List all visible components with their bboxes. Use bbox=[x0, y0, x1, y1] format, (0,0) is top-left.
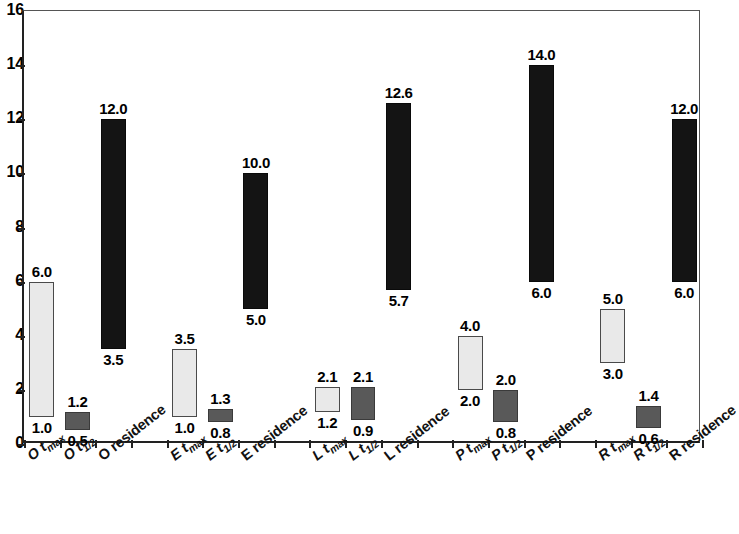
x-axis-tick-mark bbox=[309, 440, 311, 448]
bar-r-thalf bbox=[636, 406, 661, 428]
y-axis-tick-mark bbox=[18, 336, 25, 338]
bar-value-label-high: 2.1 bbox=[333, 368, 393, 385]
bar-r-residence bbox=[672, 119, 697, 281]
y-axis-tick-label: 14 bbox=[0, 55, 24, 73]
bar-value-label-high: 5.0 bbox=[583, 290, 643, 307]
y-axis-tick-mark bbox=[18, 282, 25, 284]
bar-value-label-high: 14.0 bbox=[511, 46, 571, 63]
y-axis-tick-mark bbox=[18, 228, 25, 230]
x-axis-tick-mark bbox=[24, 440, 26, 448]
bar-value-label-high: 6.0 bbox=[12, 263, 72, 280]
bar-p-residence bbox=[529, 65, 554, 282]
bar-value-label-high: 12.0 bbox=[654, 100, 714, 117]
bar-value-label-high: 1.4 bbox=[618, 387, 678, 404]
x-axis-tick-mark bbox=[381, 440, 383, 448]
bar-l-tmax bbox=[315, 387, 340, 411]
bar-value-label-low: 5.7 bbox=[369, 292, 429, 309]
bar-value-label-high: 4.0 bbox=[440, 317, 500, 334]
bar-value-label-low: 2.0 bbox=[440, 392, 500, 409]
bar-o-residence bbox=[101, 119, 126, 349]
bar-value-label-high: 12.6 bbox=[369, 84, 429, 101]
bar-value-label-high: 12.0 bbox=[83, 100, 143, 117]
bar-value-label-high: 2.0 bbox=[476, 371, 536, 388]
y-axis-tick-label: 0 bbox=[0, 434, 24, 452]
bar-value-label-low: 3.5 bbox=[83, 351, 143, 368]
y-axis-tick-mark bbox=[18, 173, 25, 175]
bar-e-residence bbox=[243, 173, 268, 308]
y-axis-tick-mark bbox=[18, 390, 25, 392]
bar-value-label-high: 1.3 bbox=[190, 390, 250, 407]
y-axis-tick-label: 10 bbox=[0, 163, 24, 181]
y-axis-tick-label: 4 bbox=[0, 326, 24, 344]
x-axis-tick-mark bbox=[595, 440, 597, 448]
bar-value-label-low: 5.0 bbox=[226, 311, 286, 328]
bar-value-label-low: 6.0 bbox=[654, 284, 714, 301]
y-axis-tick-label: 12 bbox=[0, 109, 24, 127]
bar-value-label-high: 10.0 bbox=[226, 154, 286, 171]
bar-value-label-low: 6.0 bbox=[511, 284, 571, 301]
x-axis-tick-mark bbox=[167, 440, 169, 448]
x-axis-tick-mark bbox=[452, 440, 454, 448]
y-axis-tick-label: 8 bbox=[0, 218, 24, 236]
bar-r-tmax bbox=[600, 309, 625, 363]
bar-l-residence bbox=[386, 103, 411, 290]
bar-value-label-high: 1.2 bbox=[48, 393, 108, 410]
plot-area: 6.01.01.20.512.03.53.51.01.30.810.05.02.… bbox=[22, 10, 700, 443]
bar-value-label-low: 3.0 bbox=[583, 365, 643, 382]
y-axis-tick-mark bbox=[18, 119, 25, 121]
y-axis-tick-label: 16 bbox=[0, 1, 24, 19]
bar-value-label-high: 3.5 bbox=[155, 330, 215, 347]
y-axis-tick-mark bbox=[18, 65, 25, 67]
y-axis-tick-label: 2 bbox=[0, 380, 24, 398]
